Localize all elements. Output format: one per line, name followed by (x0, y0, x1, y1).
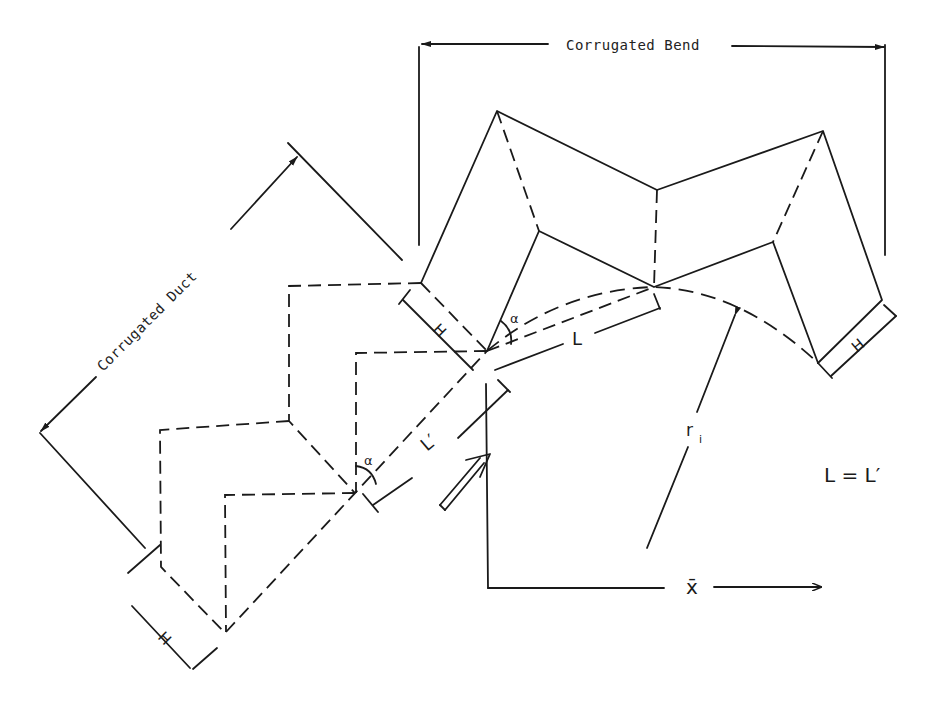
bend-inner-profile (487, 231, 818, 363)
h-duct-lower-ext-1 (128, 545, 160, 573)
duct-bracket-lower-leg (40, 433, 145, 548)
flow-arrow-tail (440, 505, 445, 510)
dimension-l-bend: L (495, 294, 660, 370)
l-prime-ext-2 (498, 380, 510, 392)
dimension-h-duct-lower: H (128, 545, 217, 669)
radius-line-upper (697, 315, 735, 412)
duct-outer-profile-upper (289, 283, 421, 493)
h-bend-ext-1 (818, 363, 832, 378)
l-bend-line-a (495, 344, 563, 370)
corrugated-bend-label: Corrugated Bend (566, 37, 700, 53)
equation-l-equals-l-prime: L = L′ (824, 463, 881, 487)
h-bend-label: H (848, 335, 868, 356)
h-duct-upper-label: H (429, 320, 450, 341)
duct-arrow-lower (41, 377, 96, 431)
bend-dimension-bracket: Corrugated Bend (419, 37, 885, 255)
dimension-h-duct-upper: H (399, 290, 473, 370)
bend-outer-profile (421, 111, 882, 363)
alpha-duct-label: α (364, 453, 373, 468)
radius-indicator: r i (647, 315, 735, 548)
l-prime-line-a (373, 478, 412, 505)
h-duct-lower-ext-2 (193, 648, 217, 669)
duct-edge-at-junction (421, 283, 487, 351)
bend-centerline-arc (487, 287, 818, 363)
y-axis-line (486, 384, 488, 588)
l-bend-line-b (595, 308, 660, 333)
alpha-bend-label: α (510, 311, 519, 326)
flow-arrow-shaft (440, 458, 484, 510)
duct-dimension-bracket: Corrugated Duct (40, 143, 402, 548)
flow-direction-arrow-icon (440, 454, 490, 510)
duct-bracket-upper-leg (288, 143, 402, 260)
bend-ridge-2 (654, 190, 657, 287)
x-bar-label: x̄ (686, 575, 698, 599)
l-prime-line-b (458, 390, 508, 438)
duct-arrow-upper (231, 157, 297, 229)
corrugated-duct-label: Corrugated Duct (94, 268, 200, 374)
l-bend-ext (654, 294, 660, 309)
radius-line-lower (647, 447, 688, 548)
coordinate-axes: x̄ (486, 384, 821, 599)
bend-ridge-3 (773, 131, 823, 242)
radius-label: r (686, 420, 693, 440)
dimension-h-bend: H (818, 305, 896, 378)
radius-subscript: i (699, 433, 702, 446)
h-duct-lower-label: H (154, 628, 175, 649)
h-bend-ext-2 (884, 305, 896, 316)
bend-arrow-right (732, 46, 884, 47)
angle-alpha-duct: α (356, 453, 376, 484)
l-prime-label: L′ (416, 430, 440, 455)
l-bend-label: L (572, 328, 582, 349)
corrugated-bend-diagram: Corrugated Bend Corrugated Duct H H (0, 0, 934, 719)
